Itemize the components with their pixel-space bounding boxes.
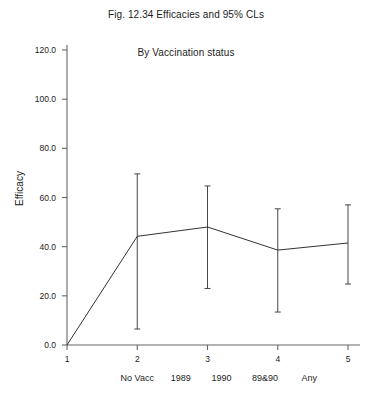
y-axis-tick-label: 60.0	[12, 193, 56, 203]
y-axis-tick-label: 120.0	[12, 45, 56, 55]
x-axis-tick-label: 5	[328, 354, 368, 364]
x-axis-tick-label: 1	[47, 354, 87, 364]
error-bar	[275, 209, 281, 312]
y-axis-label: Efficacy	[14, 159, 25, 219]
axes	[62, 45, 360, 350]
error-bars	[134, 174, 351, 329]
y-axis-tick-label: 40.0	[12, 242, 56, 252]
x-axis-tick-label: 4	[258, 354, 298, 364]
error-bar	[345, 205, 351, 284]
chart-title: Fig. 12.34 Efficacies and 95% CLs	[0, 9, 372, 20]
y-axis-tick-label: 20.0	[12, 291, 56, 301]
chart-figure: Fig. 12.34 Efficacies and 95% CLs By Vac…	[0, 0, 372, 401]
error-bar	[205, 186, 211, 289]
x-axis-tick-label: 3	[188, 354, 228, 364]
y-axis-tick-label: 80.0	[12, 143, 56, 153]
y-axis-tick-label: 100.0	[12, 94, 56, 104]
x-axis-tick-label: 2	[117, 354, 157, 364]
y-axis-tick-label: 0.0	[12, 340, 56, 350]
x-axis-group-label: Any	[274, 373, 344, 383]
error-bar	[134, 174, 140, 329]
